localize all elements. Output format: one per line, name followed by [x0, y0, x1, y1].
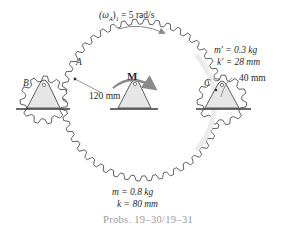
- large-gear-gyration: k = 80 mm: [117, 200, 158, 210]
- figure-caption: Probs. 19–30/19–31: [103, 215, 193, 226]
- radius-small-label: 40 mm: [239, 74, 266, 84]
- moment-label: M: [127, 71, 137, 82]
- point-a-label: A: [76, 58, 82, 68]
- point-c-label: C: [204, 79, 210, 89]
- radius-large-label: 120 mm: [89, 92, 120, 102]
- point-a-dot: [74, 78, 77, 81]
- point-b-label: B: [23, 79, 29, 89]
- small-gear-gyration: k′ = 28 mm: [217, 58, 260, 68]
- small-gear-mass: m′ = 0.3 kg: [214, 46, 257, 56]
- large-gear-mass: m = 0.8 kg: [112, 188, 153, 198]
- angular-velocity-label: (ωA)1 = 5 rad/s: [99, 11, 154, 22]
- point-c-dot: [215, 89, 218, 92]
